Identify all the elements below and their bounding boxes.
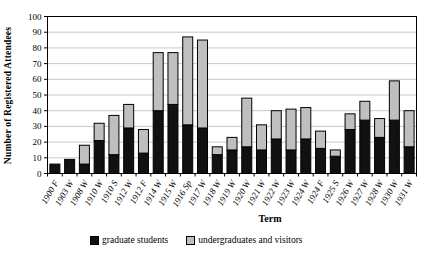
legend-swatch-undergraduates-and-visitors <box>186 236 195 245</box>
y-tick-label: 90 <box>33 27 43 37</box>
bar-segment-1931-W <box>404 111 414 147</box>
legend-swatch-graduate-students <box>90 236 99 245</box>
legend: graduate students undergraduates and vis… <box>90 235 303 245</box>
bar-segment-1923-W <box>286 109 296 150</box>
bar-segment-1926-W <box>345 114 355 130</box>
bar-segment-1928-W <box>375 137 385 173</box>
bar-segment-1918-W <box>212 155 222 174</box>
bar-segment-1916-Sp <box>183 125 193 174</box>
y-tick-label: 50 <box>33 90 43 100</box>
bar-segment-1928-W <box>375 119 385 138</box>
bar-segment-1923-W <box>286 150 296 174</box>
bar-segment-1924-F <box>316 148 326 173</box>
bar-segment-1917-W <box>197 40 207 128</box>
bar-segment-1903-W <box>65 159 75 173</box>
legend-label-graduate-students: graduate students <box>102 235 168 245</box>
x-axis-title: Term <box>180 213 360 224</box>
bar-segment-1910-W <box>94 123 104 140</box>
y-tick-label: 60 <box>33 74 43 84</box>
y-tick-label: 20 <box>33 137 43 147</box>
bar-segment-1925-S <box>330 156 340 173</box>
bar-segment-1914-W <box>153 53 163 111</box>
y-tick-label: 0 <box>37 169 42 179</box>
bar-segment-1912-W <box>124 128 134 174</box>
bar-segment-1918-W <box>212 147 222 155</box>
bar-segment-1910-S <box>109 155 119 174</box>
bar-segment-1924-W <box>301 108 311 139</box>
bar-segment-1924-F <box>316 131 326 148</box>
bar-segment-1930-W <box>389 120 399 173</box>
bar-segment-1922-W <box>271 111 281 139</box>
bar-segment-1921-W <box>257 125 267 150</box>
bar-segment-1916-Sp <box>183 37 193 125</box>
bar-segment-1910-W <box>94 141 104 174</box>
bar-segment-1920-W <box>242 98 252 147</box>
bar-segment-1919-W <box>227 150 237 174</box>
bar-segment-1920-W <box>242 147 252 174</box>
y-tick-label: 10 <box>33 153 43 163</box>
bar-segment-1919-W <box>227 137 237 150</box>
y-tick-label: 100 <box>28 12 42 22</box>
y-tick-label: 80 <box>33 43 43 53</box>
bar-segment-1927-W <box>360 120 370 173</box>
bar-segment-1926-W <box>345 130 355 174</box>
bar-segment-1915-W <box>168 53 178 105</box>
bar-segment-1912-F <box>138 130 148 154</box>
legend-label-undergraduates-and-visitors: undergraduates and visitors <box>198 235 302 245</box>
bar-segment-1930-W <box>389 81 399 120</box>
bar-segment-1927-W <box>360 101 370 120</box>
legend-item-undergraduates-and-visitors: undergraduates and visitors <box>186 235 302 245</box>
stacked-bar-chart: 01020304050607080901001900 F1903 W1908 W… <box>0 0 431 260</box>
bar-segment-1900-F <box>50 164 60 173</box>
legend-item-graduate-students: graduate students <box>90 235 168 245</box>
bar-segment-1921-W <box>257 150 267 174</box>
bar-segment-1910-S <box>109 115 119 154</box>
bar-segment-1924-W <box>301 139 311 174</box>
y-tick-label: 30 <box>33 121 43 131</box>
bar-segment-1912-F <box>138 153 148 173</box>
y-tick-label: 40 <box>33 106 43 116</box>
bar-segment-1922-W <box>271 139 281 174</box>
bar-segment-1917-W <box>197 128 207 174</box>
bar-segment-1915-W <box>168 104 178 173</box>
bar-segment-1914-W <box>153 111 163 174</box>
bar-segment-1931-W <box>404 147 414 174</box>
bar-segment-1912-W <box>124 104 134 128</box>
bar-segment-1908-W <box>79 164 89 173</box>
y-axis-title: Number of Registered Attendees <box>3 22 16 170</box>
y-tick-label: 70 <box>33 59 43 69</box>
bar-segment-1925-S <box>330 150 340 156</box>
bar-segment-1908-W <box>79 145 89 164</box>
